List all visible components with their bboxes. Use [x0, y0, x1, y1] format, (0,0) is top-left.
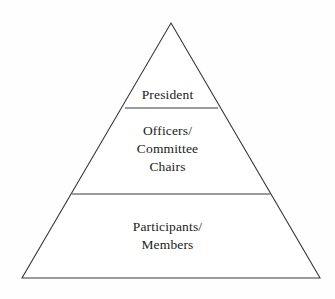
tier-bottom-line-1: Participants/: [0, 218, 335, 236]
tier-middle-line-1: Officers/: [0, 122, 335, 140]
tier-bottom-line-2: Members: [0, 236, 335, 254]
tier-top-line-1: President: [0, 86, 335, 104]
tier-label-officers-committee-chairs: Officers/ Committee Chairs: [0, 122, 335, 176]
tier-label-participants-members: Participants/ Members: [0, 218, 335, 254]
tier-middle-line-2: Committee: [0, 140, 335, 158]
tier-label-president: President: [0, 86, 335, 104]
tier-middle-line-3: Chairs: [0, 158, 335, 176]
pyramid-diagram: President Officers/ Committee Chairs Par…: [0, 0, 335, 299]
